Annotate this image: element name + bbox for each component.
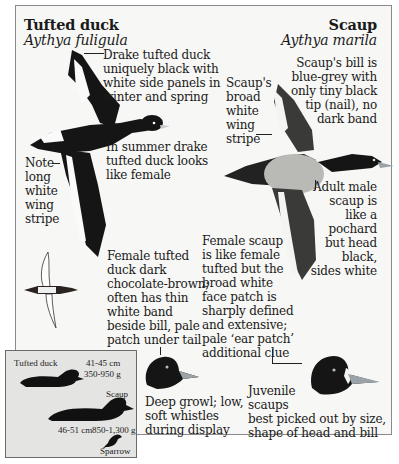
tufted-weight: 350-950 g [84,369,121,379]
leader-line [160,347,161,355]
scaup-silhouette [46,395,136,423]
scaup-bill-note: Scaup's bill isblue-grey with only tiny … [257,56,377,126]
female-scaup-note: Female scaupis like female tufted but th… [202,234,294,360]
scaup-latin-name: Aythya marila [237,32,377,48]
female-tufted-head-illustration [143,355,203,395]
leader-line [272,349,273,363]
voice-note: Deep growl; low,soft whistles during dis… [145,395,243,437]
drake-tufted-note: Drake tufted duckuniquely black with whi… [103,48,220,104]
summer-drake-note: In summer draketufted duck looks like fe… [106,140,208,182]
tufted-length: 41-45 cm [86,358,120,368]
female-tufted-note: Female tuftedduck dark chocolate-brown;o… [107,249,209,347]
female-tufted-flying-illustration [20,250,80,330]
sparrow-label: Sparrow [100,446,131,456]
scaup-length: 46-51 cm [58,425,92,435]
tufted-wing-stripe-note: Notelong whitewing stripe [25,156,59,226]
size-comparison-inset: Tufted duck 41-45 cm 350-950 g Scaup 46-… [5,350,137,458]
leader-line [272,363,302,364]
tufted-silhouette [18,367,88,389]
leader-line [84,53,104,54]
tufted-duck-title: Tufted duck [24,17,119,33]
adult-male-scaup-note: Adult malescaup is like apochard but hea… [287,180,377,278]
juvenile-scaup-note: Juvenilescaups best picked out by size,s… [248,384,386,440]
leader-line [52,163,60,164]
scaup-title: Scaup [257,17,377,33]
